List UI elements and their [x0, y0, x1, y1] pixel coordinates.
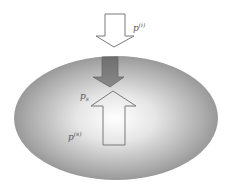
diagram-canvas: p(i) ps p(s)	[0, 0, 231, 189]
incident-arrow-icon	[96, 14, 134, 47]
incident-pressure-label: p(i)	[133, 21, 146, 33]
